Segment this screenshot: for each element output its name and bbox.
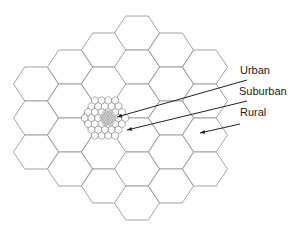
label-urban: Urban xyxy=(240,65,270,76)
label-rural: Rural xyxy=(240,107,266,118)
label-suburban: Suburban xyxy=(239,86,287,97)
urban-cell xyxy=(114,117,116,120)
